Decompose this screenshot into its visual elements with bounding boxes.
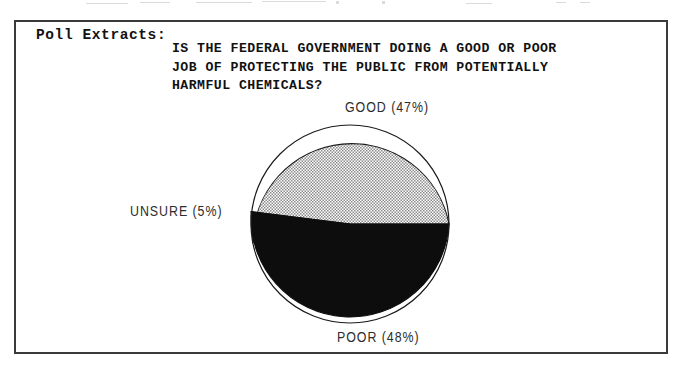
poll-question: IS THE FEDERAL GOVERNMENT DOING A GOOD O…	[172, 40, 612, 96]
question-line-3: HARMFUL CHEMICALS?	[172, 77, 612, 96]
question-line-1: IS THE FEDERAL GOVERNMENT DOING A GOOD O…	[172, 40, 612, 59]
panel-title: Poll Extracts:	[36, 27, 166, 43]
scan-artifact-strip	[0, 0, 689, 12]
question-line-2: JOB OF PROTECTING THE PUBLIC FROM POTENT…	[172, 59, 612, 78]
